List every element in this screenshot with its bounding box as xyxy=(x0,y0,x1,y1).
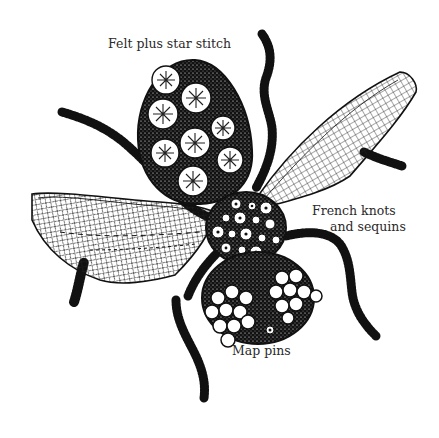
label-head: Map pins xyxy=(232,343,291,359)
label-abdomen: Felt plus star stitch xyxy=(108,36,231,52)
right-wing xyxy=(258,72,416,206)
abdomen xyxy=(138,60,252,204)
label-thorax-line2: and sequins xyxy=(330,219,406,235)
label-thorax-line1: French knots xyxy=(312,203,396,219)
head xyxy=(202,252,322,347)
leg-lower-long xyxy=(176,300,205,398)
left-wing xyxy=(32,193,215,283)
leg-upper-right xyxy=(256,34,272,188)
